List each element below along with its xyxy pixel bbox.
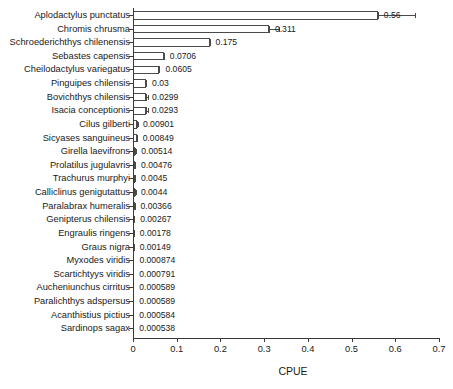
x-tick <box>133 338 134 342</box>
y-tick <box>129 260 133 261</box>
value-label: 0.311 <box>275 23 296 37</box>
x-tick-label: 0 <box>118 344 148 354</box>
y-tick <box>129 29 133 30</box>
category-label: Cheilodactylus variegatus <box>0 63 133 77</box>
category-label: Graus nigra <box>0 241 133 255</box>
bar <box>133 79 146 87</box>
bar <box>133 52 164 60</box>
error-bar-cap-right <box>136 149 137 154</box>
category-label: Acanthistius pictius <box>0 309 133 323</box>
category-label: Sebastes capensis <box>0 50 133 64</box>
value-label: 0.0293 <box>152 104 178 118</box>
category-label: Aucheniunchus cirritus <box>0 281 133 295</box>
value-label: 0.000791 <box>139 268 175 282</box>
y-tick <box>129 315 133 316</box>
category-label: Girella laevifrons <box>0 145 133 159</box>
category-label: Prolatilus jugulavris <box>0 159 133 173</box>
x-tick-label: 0.1 <box>162 344 192 354</box>
value-label: 0.0044 <box>141 186 167 200</box>
bar-row: Calliclinus genigutattus0.0044 <box>0 186 453 200</box>
y-tick <box>129 328 133 329</box>
bar-row: Sicyases sanguineus0.00849 <box>0 132 453 146</box>
bar-row: Pinguipes chilensis0.03 <box>0 77 453 91</box>
value-label: 0.000584 <box>139 309 175 323</box>
category-label: Engraulis ringens <box>0 227 133 241</box>
category-label: Sicyases sanguineus <box>0 132 133 146</box>
value-label: 0.00178 <box>140 227 171 241</box>
error-bar-cap-right <box>135 163 136 168</box>
x-axis-line <box>133 338 439 339</box>
bar-row: Bovichthys chilensis0.0299 <box>0 91 453 105</box>
x-tick-label: 0.7 <box>424 344 453 354</box>
value-label: 0.00849 <box>143 132 174 146</box>
bar <box>133 38 210 46</box>
bar-row: Aplodactylus punctatus0.56 <box>0 9 453 23</box>
x-tick-label: 0.2 <box>205 344 235 354</box>
category-label: Calliclinus genigutattus <box>0 186 133 200</box>
y-tick <box>129 69 133 70</box>
category-label: Isacia conceptionis <box>0 104 133 118</box>
error-bar-cap-left <box>159 66 160 73</box>
error-bar-cap-right <box>136 190 137 195</box>
bar-row: Paralichthys adspersus0.000589 <box>0 295 453 309</box>
category-label: Schroederichthys chilenensis <box>0 36 133 50</box>
category-label: Chromis chrusma <box>0 23 133 37</box>
x-axis-title: CPUE <box>0 365 453 377</box>
error-bar-cap-left <box>146 80 147 87</box>
bar-row: Myxodes viridis0.000874 <box>0 254 453 268</box>
y-tick <box>129 165 133 166</box>
error-bar-cap-left <box>164 53 165 60</box>
bar-row: Genipterus chilensis0.00267 <box>0 213 453 227</box>
bar-row: Graus nigra0.00149 <box>0 241 453 255</box>
y-tick <box>129 287 133 288</box>
y-tick <box>129 206 133 207</box>
error-bar-cap-right <box>135 204 136 209</box>
y-tick <box>129 219 133 220</box>
value-label: 0.56 <box>384 9 401 23</box>
value-label: 0.0605 <box>165 63 191 77</box>
value-label: 0.000589 <box>139 281 175 295</box>
x-tick-label: 0.3 <box>249 344 279 354</box>
y-tick <box>129 301 133 302</box>
category-label: Paralichthys adspersus <box>0 295 133 309</box>
y-tick <box>129 178 133 179</box>
bar <box>133 107 146 115</box>
bar <box>133 25 269 33</box>
y-tick <box>129 15 133 16</box>
x-tick <box>177 338 178 342</box>
chart-page: Aplodactylus punctatus0.56Chromis chrusm… <box>0 0 453 389</box>
x-tick <box>352 338 353 342</box>
category-label: Genipterus chilensis <box>0 213 133 227</box>
x-tick <box>264 338 265 342</box>
bar-row: Sardinops sagax0.000538 <box>0 322 453 336</box>
bar-row: Paralabrax humeralis0.00366 <box>0 200 453 214</box>
value-label: 0.0299 <box>152 91 178 105</box>
category-label: Paralabrax humeralis <box>0 200 133 214</box>
value-label: 0.000589 <box>139 295 175 309</box>
error-bar-cap-right <box>135 176 136 181</box>
error-bar-cap-right <box>148 95 149 100</box>
bar-row: Trachurus murphyi0.0045 <box>0 172 453 186</box>
bar-row: Sebastes capensis0.0706 <box>0 50 453 64</box>
y-tick <box>129 124 133 125</box>
bar-row: Schroederichthys chilenensis0.175 <box>0 36 453 50</box>
value-label: 0.0706 <box>170 50 196 64</box>
error-bar-cap-right <box>415 13 416 18</box>
x-tick-label: 0.4 <box>293 344 323 354</box>
error-bar-cap-right <box>148 108 149 113</box>
value-label: 0.00267 <box>140 213 171 227</box>
bar-row: Aucheniunchus cirritus0.000589 <box>0 281 453 295</box>
value-label: 0.00514 <box>141 145 172 159</box>
y-axis-line <box>133 8 134 338</box>
category-label: Scartichtyys viridis <box>0 268 133 282</box>
y-tick <box>129 97 133 98</box>
bar-row: Scartichtyys viridis0.000791 <box>0 268 453 282</box>
bar-row: Chromis chrusma0.311 <box>0 23 453 37</box>
y-tick <box>129 192 133 193</box>
y-tick <box>129 274 133 275</box>
x-tick <box>220 338 221 342</box>
x-tick <box>308 338 309 342</box>
bar <box>133 66 159 74</box>
error-bar-cap-left <box>137 135 138 142</box>
x-tick-label: 0.6 <box>380 344 410 354</box>
